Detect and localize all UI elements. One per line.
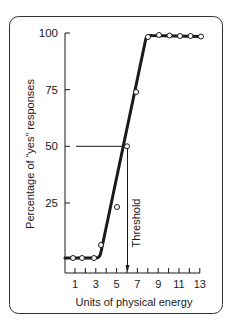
threshold-arrow <box>126 146 130 272</box>
y-axis-label: Percentage of “yes” responses <box>24 79 36 229</box>
data-point <box>188 34 193 39</box>
chart-border <box>10 17 223 314</box>
x-tick-label-11: 11 <box>173 278 184 290</box>
y-tick-label-25: 25 <box>45 197 58 209</box>
x-tick-label-1: 1 <box>72 278 78 290</box>
data-point <box>178 34 183 39</box>
x-tick-label-5: 5 <box>114 278 120 290</box>
chart-figure: 100 75 50 25 Percentage of “yes” respons… <box>0 0 231 330</box>
data-point <box>157 33 162 38</box>
data-point <box>134 90 139 95</box>
x-tick-label-7: 7 <box>134 278 140 290</box>
x-tick-label-13: 13 <box>194 278 206 290</box>
x-tick-label-3: 3 <box>93 278 99 290</box>
y-tick-label-50: 50 <box>45 140 58 152</box>
y-tick-label-75: 75 <box>45 84 58 96</box>
y-ticks <box>65 33 70 203</box>
data-point <box>115 205 120 210</box>
chart-svg: 100 75 50 25 Percentage of “yes” respons… <box>0 0 231 330</box>
data-point <box>125 144 130 149</box>
data-point <box>80 256 85 261</box>
data-point <box>199 34 204 39</box>
data-point <box>167 33 172 38</box>
data-point <box>146 35 151 40</box>
x-ticks <box>75 268 200 273</box>
data-point <box>92 256 97 261</box>
y-tick-label-100: 100 <box>39 27 58 39</box>
data-point <box>99 243 104 248</box>
arrow-head-icon <box>126 265 130 272</box>
data-point <box>71 256 76 261</box>
x-axis-label: Units of physical energy <box>76 296 193 308</box>
x-tick-label-9: 9 <box>155 278 161 290</box>
threshold-label: Threshold <box>130 199 142 248</box>
